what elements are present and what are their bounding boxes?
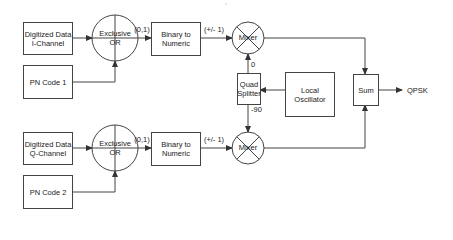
q-phase-label: -90 [251, 105, 265, 114]
local-oscillator-label: Local Oscillator [294, 86, 325, 104]
local-oscillator-block: Local Oscillator [285, 72, 335, 117]
i-mixer-label: Mixer [234, 33, 262, 42]
pn-code-2-label: PN Code 2 [30, 188, 67, 197]
i-mixer-to-sum-arrow [264, 38, 365, 74]
i-phase-label: 0 [251, 60, 261, 69]
quad-splitter-block: Quad Splitter [237, 73, 261, 105]
pn1-to-xor-arrow [72, 61, 115, 82]
i-channel-data-block: Digitized Data I-Channel [23, 22, 73, 55]
pn-code-1-block: PN Code 1 [23, 65, 73, 99]
pn-code-2-block: PN Code 2 [23, 175, 73, 209]
quad-splitter-label: Quad Splitter [237, 80, 260, 98]
q-converter-output-label: (+/- 1) [200, 135, 228, 144]
i-channel-data-label: Digitized Data I-Channel [25, 30, 72, 48]
q-channel-data-label: Digitized Data Q-Channel [25, 140, 72, 158]
q-xor-output-label: (0,1) [132, 135, 152, 144]
i-binary-to-numeric-label: Binary to Numeric [161, 30, 191, 48]
pn-code-1-label: PN Code 1 [30, 78, 67, 87]
sum-label: Sum [358, 86, 373, 95]
pn2-to-xor-arrow [72, 171, 115, 192]
qpsk-output-label: QPSK [407, 86, 431, 95]
i-xor-output-label: (0,1) [132, 25, 152, 34]
i-converter-output-label: (+/- 1) [200, 25, 228, 34]
i-xor-label: Exclusive OR [93, 29, 137, 47]
q-mixer-label: Mixer [234, 143, 262, 152]
q-channel-data-block: Digitized Data Q-Channel [23, 132, 73, 165]
q-xor-label: Exclusive OR [93, 139, 137, 157]
i-binary-to-numeric-block: Binary to Numeric [151, 22, 201, 56]
q-binary-to-numeric-block: Binary to Numeric [151, 132, 201, 166]
q-binary-to-numeric-label: Binary to Numeric [161, 140, 191, 158]
sum-block: Sum [353, 74, 379, 106]
